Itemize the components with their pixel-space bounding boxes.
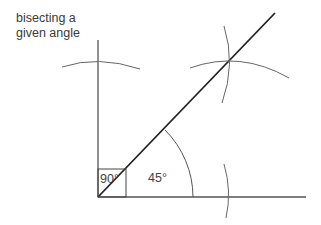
half-angle-arc [165,130,193,197]
intersect-arc-a [190,61,289,78]
construction-arc-horizontal [224,164,229,218]
half-angle-label: 45° [148,171,167,185]
construction-arc-vertical [62,61,140,69]
angle-bisection-diagram: 90° 45° [0,0,321,225]
right-angle-label: 90° [100,172,119,186]
